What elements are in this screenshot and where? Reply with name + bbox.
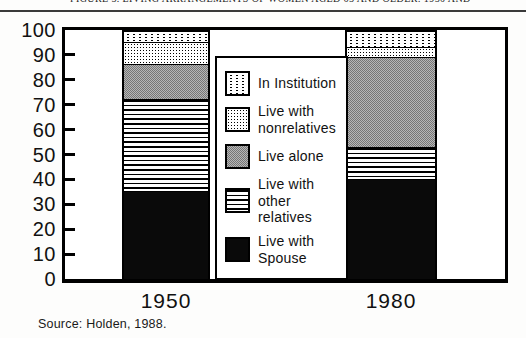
y-axis-tick-label-0: 0: [0, 268, 56, 290]
legend-item-live-with-other-relatives: Live with other relatives: [225, 176, 340, 226]
figure-caption-clipped: FIGURE 5. LIVING ARRANGEMENTS OF WOMEN A…: [70, 0, 470, 7]
legend-item-live-alone: Live alone: [225, 144, 340, 169]
y-axis-tick-mark-90: [65, 53, 75, 56]
legend-item-in-institution: In Institution: [225, 71, 340, 96]
bar-segment-1950-live-alone: [124, 64, 208, 99]
chart-legend: In InstitutionLive with nonrelativesLive…: [215, 56, 348, 280]
bar-segment-1950-live-with-spouse: [124, 191, 208, 279]
caption-divider-rule: [0, 10, 526, 12]
y-axis-tick-label-20: 20: [0, 218, 56, 240]
y-axis-tick-label-60: 60: [0, 119, 56, 141]
bar-segment-1950-live-with-nonrelatives: [124, 42, 208, 64]
legend-label: In Institution: [258, 75, 336, 92]
source-note: Source: Holden, 1988.: [38, 317, 167, 331]
y-axis-tick-label-80: 80: [0, 69, 56, 91]
legend-item-live-with-nonrelatives: Live with nonrelatives: [225, 103, 340, 136]
legend-label: Live alone: [258, 148, 324, 165]
y-axis-tick-label-30: 30: [0, 193, 56, 215]
bar-segment-1950-in-institution: [124, 32, 208, 42]
y-axis-tick-label-50: 50: [0, 144, 56, 166]
y-axis-tick-label-70: 70: [0, 94, 56, 116]
bar-segment-1980-in-institution: [347, 32, 435, 47]
y-axis-tick-label-10: 10: [0, 243, 56, 265]
stacked-bar-1980: [345, 30, 437, 279]
y-axis-tick-label-100: 100: [0, 19, 56, 41]
y-axis-tick-label-40: 40: [0, 168, 56, 190]
legend-label: Live with other relatives: [258, 176, 340, 226]
y-axis-tick-mark-20: [65, 228, 75, 231]
legend-label: Live with nonrelatives: [258, 103, 336, 136]
legend-swatch-dense-dots: [225, 107, 250, 132]
y-axis-tick-mark-60: [65, 128, 75, 131]
bar-segment-1980-live-with-spouse: [347, 179, 435, 279]
bar-segment-1980-live-with-nonrelatives: [347, 47, 435, 57]
x-category-label-1980: 1980: [346, 289, 436, 313]
legend-swatch-solid-black: [225, 237, 250, 262]
y-axis-tick-mark-10: [65, 253, 75, 256]
bar-segment-1980-live-alone: [347, 57, 435, 147]
y-axis-tick-mark-30: [65, 203, 75, 206]
legend-swatch-sparse-dots: [225, 71, 250, 96]
bar-segment-1950-live-with-other-relatives: [124, 99, 208, 191]
y-axis-tick-mark-50: [65, 153, 75, 156]
x-category-label-1950: 1950: [121, 289, 211, 313]
stacked-bar-1950: [122, 30, 210, 279]
bar-segment-1980-live-with-other-relatives: [347, 147, 435, 179]
legend-swatch-gray-checker: [225, 144, 250, 169]
y-axis-tick-label-90: 90: [0, 44, 56, 66]
legend-label: Live with Spouse: [258, 233, 314, 266]
legend-item-live-with-spouse: Live with Spouse: [225, 233, 340, 266]
y-axis-tick-mark-40: [65, 178, 75, 181]
y-axis-tick-mark-80: [65, 78, 75, 81]
figure-canvas: FIGURE 5. LIVING ARRANGEMENTS OF WOMEN A…: [0, 0, 526, 338]
figure-caption-text: FIGURE 5. LIVING ARRANGEMENTS OF WOMEN A…: [70, 0, 470, 4]
legend-swatch-h-lines: [225, 188, 250, 213]
y-axis-tick-mark-70: [65, 103, 75, 106]
